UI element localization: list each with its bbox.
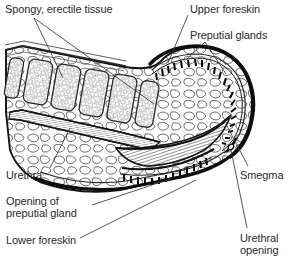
label-smegma: Smegma (240, 170, 283, 182)
label-urethral-opening-line-1: Urethral (240, 232, 278, 244)
label-urethral-opening: Urethralopening (240, 233, 278, 256)
label-lower-foreskin: Lower foreskin (6, 235, 76, 247)
label-spongy-erectile-tissue: Spongy, erectile tissue (5, 4, 113, 16)
clipped-caption (60, 262, 235, 269)
label-urethral-opening-line-2: opening (240, 244, 278, 256)
label-opening-of-preputial-gland: Opening ofpreputial gland (6, 196, 77, 219)
label-opening-line-2: preputial gland (6, 207, 77, 219)
label-opening-line-1: Opening of (6, 195, 59, 207)
label-preputial-glands: Preputial glands (190, 30, 267, 42)
label-urethra: Urethra (6, 170, 42, 182)
label-upper-foreskin: Upper foreskin (190, 4, 260, 16)
